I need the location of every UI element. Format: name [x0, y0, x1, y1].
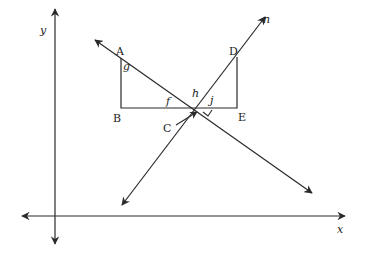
right-triangle — [200, 57, 237, 108]
point-e-label: E — [238, 111, 246, 124]
point-c-label: C — [163, 122, 171, 135]
y-axis-label: y — [39, 24, 47, 37]
angle-g-label: g — [123, 60, 130, 73]
diagram-canvas: y x n A B C D E g f h j — [0, 0, 366, 261]
left-triangle — [121, 58, 200, 108]
angle-j-label: j — [207, 94, 214, 107]
point-b-label: B — [113, 112, 121, 125]
point-a-label: A — [115, 45, 125, 58]
angle-f-label: f — [165, 95, 172, 108]
point-d-label: D — [229, 45, 238, 58]
right-angle-marker — [203, 110, 212, 116]
angle-h-label: h — [192, 87, 199, 100]
x-axis-label: x — [337, 223, 344, 236]
line-n-label: n — [263, 13, 270, 26]
geometry-diagram: y x n A B C D E g f h j — [0, 0, 366, 261]
c-pointer-arrow — [176, 112, 197, 125]
